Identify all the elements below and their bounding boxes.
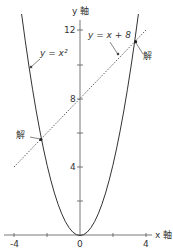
line-label: y = x + 8 bbox=[88, 31, 131, 40]
y-tick-12: 12 bbox=[64, 26, 75, 35]
y-tick-4: 4 bbox=[70, 163, 76, 172]
solution-point-right bbox=[134, 40, 137, 43]
x-axis-label: x 軸 bbox=[155, 231, 172, 240]
y-tick-8: 8 bbox=[70, 95, 76, 104]
x-tick-0: 0 bbox=[77, 240, 83, 249]
solution-point-left bbox=[39, 138, 42, 141]
chart-canvas bbox=[0, 0, 173, 251]
y-axis-label: y 軸 bbox=[72, 7, 89, 16]
solution-label-left: 解 bbox=[16, 131, 25, 140]
x-tick-neg4: -4 bbox=[10, 240, 19, 249]
solution-label-right: 解 bbox=[143, 52, 152, 61]
x-tick-4: 4 bbox=[143, 240, 149, 249]
parabola-label: y = x² bbox=[40, 49, 68, 58]
